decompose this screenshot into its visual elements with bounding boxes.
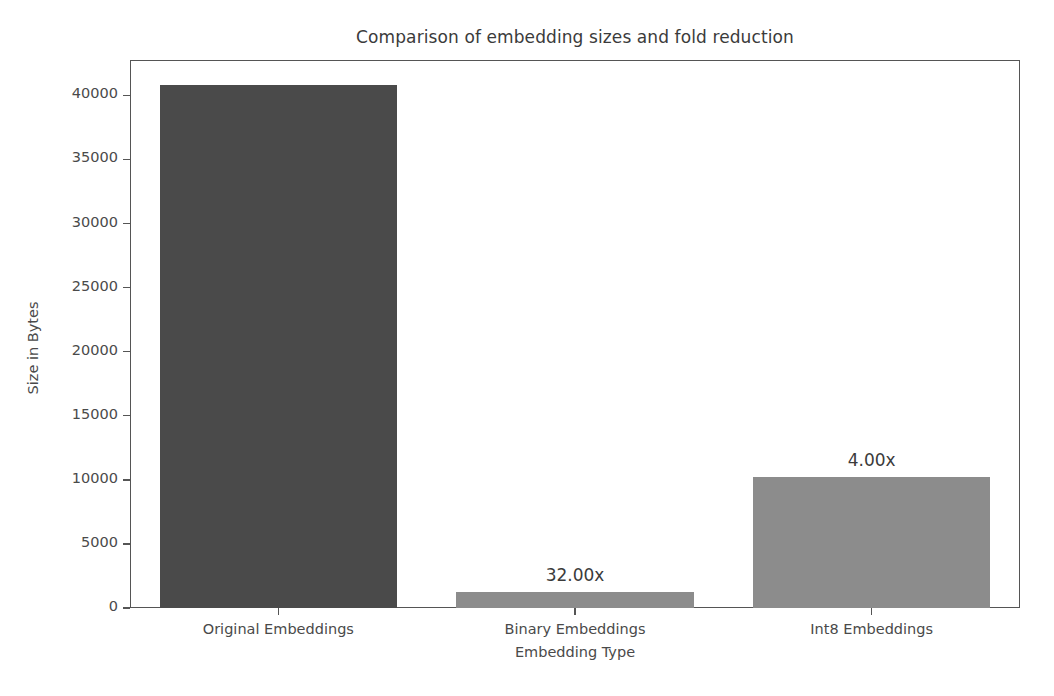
y-tick-mark [123,543,130,544]
chart-title: Comparison of embedding sizes and fold r… [130,27,1020,47]
x-tick-mark [871,608,872,615]
y-tick-label: 15000 [72,406,118,422]
y-tick-mark [123,351,130,352]
y-tick-label: 0 [109,598,118,614]
bars-layer: 32.00x4.00x [130,60,1020,608]
bar-annotation-3: 4.00x [848,450,896,470]
y-tick-mark [123,607,130,608]
y-axis-ticks: 0500010000150002000025000300003500040000 [0,60,130,608]
x-tick-label: Int8 Embeddings [810,621,933,637]
y-tick-mark [123,287,130,288]
y-tick-label: 40000 [72,85,118,101]
y-tick-mark [123,415,130,416]
y-tick-mark [123,95,130,96]
y-tick-mark [123,479,130,480]
y-tick-label: 25000 [72,278,118,294]
chart-figure: Comparison of embedding sizes and fold r… [0,0,1054,696]
bar-annotation-2: 32.00x [546,565,605,585]
y-tick-label: 35000 [72,149,118,165]
y-tick-label: 30000 [72,214,118,230]
y-tick-label: 20000 [72,342,118,358]
bar-1 [160,85,397,608]
y-tick-label: 10000 [72,470,118,486]
y-tick-mark [123,159,130,160]
x-axis-label: Embedding Type [130,644,1020,660]
y-tick-mark [123,223,130,224]
bar-2 [456,592,693,608]
y-tick-label: 5000 [81,534,118,550]
x-tick-label: Original Embeddings [203,621,354,637]
x-tick-label: Binary Embeddings [505,621,646,637]
x-tick-mark [574,608,575,615]
bar-3 [753,477,990,608]
x-tick-mark [278,608,279,615]
